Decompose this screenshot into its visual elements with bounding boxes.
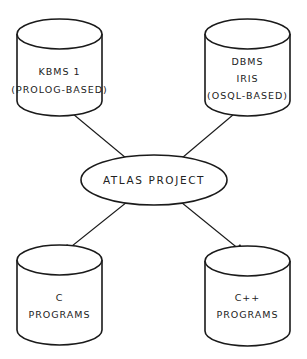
node-kbms: KBMS 1 (PROLOG-BASED): [11, 19, 107, 116]
node-label: C++: [235, 292, 261, 303]
center-label: ATLAS PROJECT: [103, 174, 205, 186]
atlas-architecture-diagram: KBMS 1 (PROLOG-BASED) DBMS IRIS (OSQL-BA…: [0, 0, 307, 359]
node-label: (PROLOG-BASED): [11, 84, 107, 95]
node-label: KBMS 1: [38, 66, 80, 77]
node-label: IRIS: [236, 73, 258, 84]
node-atlas-project: ATLAS PROJECT: [81, 155, 227, 205]
node-label: C: [56, 292, 64, 303]
node-label: DBMS: [231, 56, 263, 67]
node-c-programs: C PROGRAMS: [17, 245, 102, 345]
node-cpp-programs: C++ PROGRAMS: [205, 246, 290, 346]
node-label: PROGRAMS: [28, 309, 90, 320]
node-label: (OSQL-BASED): [207, 90, 288, 101]
node-label: PROGRAMS: [216, 309, 278, 320]
node-dbms-iris: DBMS IRIS (OSQL-BASED): [205, 19, 290, 116]
